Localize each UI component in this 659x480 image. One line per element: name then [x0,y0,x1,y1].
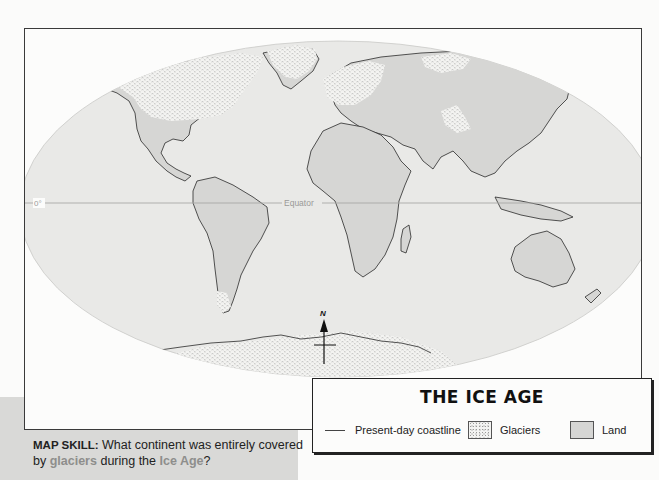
map-skill-highlight-ice-age: Ice Age [160,454,204,468]
legend-box: THE ICE AGE Present-day coastline Glacie… [312,378,652,453]
map-frame: Equator 0° N [24,28,642,430]
legend-item-land: Land [570,419,626,441]
land-swatch-icon [570,421,594,439]
map-skill-text-3: ? [204,454,211,468]
map-skill-question: MAP SKILL: What continent was entirely c… [33,437,303,469]
coastline-line-icon [325,430,345,431]
map-skill-text-2: during the [97,454,160,468]
glacier-swatch-icon [468,421,492,439]
equator-label: Equator [284,198,314,208]
legend-item-coastline: Present-day coastline [325,419,461,441]
map-skill-highlight-glaciers: glaciers [50,454,97,468]
legend-coastline-label: Present-day coastline [355,424,461,436]
legend-title: THE ICE AGE [313,387,651,407]
legend-items: Present-day coastline Glaciers Land [313,419,651,441]
legend-item-glaciers: Glaciers [468,419,540,441]
zero-degree-label: 0° [34,199,42,208]
legend-glaciers-label: Glaciers [500,424,540,436]
world-map: Equator 0° N [25,29,642,430]
north-label: N [320,309,326,318]
legend-land-label: Land [602,424,626,436]
map-skill-label: MAP SKILL: [33,439,99,451]
